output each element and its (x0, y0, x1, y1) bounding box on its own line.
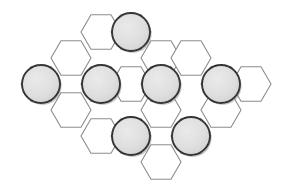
hex-board-container (0, 0, 286, 184)
game-piece-g1[interactable] (202, 65, 242, 105)
hex-board-canvas[interactable] (0, 0, 286, 184)
piece-body[interactable] (112, 13, 150, 51)
game-piece-d1[interactable] (112, 13, 152, 53)
game-piece-f2[interactable] (172, 117, 212, 157)
piece-body[interactable] (142, 65, 180, 103)
piece-body[interactable] (172, 117, 210, 155)
hex-cell-f1[interactable] (171, 41, 211, 76)
piece-body[interactable] (82, 65, 120, 103)
game-piece-a1[interactable] (22, 65, 62, 105)
piece-body[interactable] (22, 65, 60, 103)
game-piece-e4[interactable] (142, 65, 182, 105)
game-piece-d3[interactable] (112, 117, 152, 157)
piece-body[interactable] (202, 65, 240, 103)
game-piece-c2[interactable] (82, 65, 122, 105)
piece-body[interactable] (112, 117, 150, 155)
hex-cell-b1[interactable] (51, 41, 91, 76)
